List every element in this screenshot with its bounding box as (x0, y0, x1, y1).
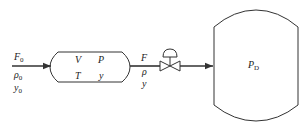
tank-pressure-label: P (98, 55, 104, 65)
inlet-composition-label: y0 (14, 83, 22, 95)
inlet-flow-label: F0 (14, 52, 24, 64)
outlet-density-label: ρ (142, 67, 147, 77)
outlet-composition-label: y (142, 79, 146, 89)
tank-volume-label: V (75, 55, 81, 65)
tank-composition-label: y (99, 71, 103, 81)
inlet-density-label: ρ0 (14, 70, 22, 82)
control-valve-icon (160, 49, 180, 71)
tank-vessel (50, 52, 130, 82)
drum-pressure-label: PD (248, 60, 259, 72)
outlet-flow-label: F (141, 53, 147, 63)
tank-temperature-label: T (75, 71, 81, 81)
